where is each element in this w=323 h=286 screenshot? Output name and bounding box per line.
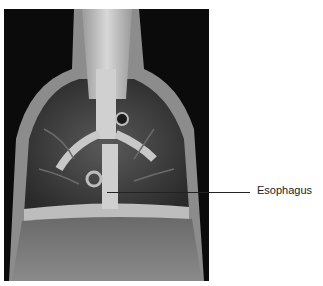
anatomical-photo [4, 9, 209, 281]
esophagus-leader-line [107, 192, 250, 193]
thorax-dissection-illustration [4, 9, 209, 281]
esophagus-label: Esophagus [257, 184, 312, 196]
